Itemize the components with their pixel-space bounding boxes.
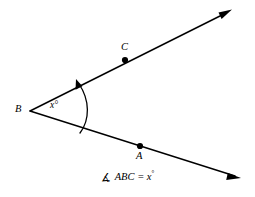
caption-degree-symbol: ° [152, 169, 155, 177]
angle-measure-label: x° [50, 101, 58, 111]
canvas-background [0, 0, 255, 197]
angle-symbol-icon: ∡ [101, 171, 111, 183]
point-marker-c [122, 57, 128, 63]
point-label-b: B [15, 104, 21, 115]
caption-text: ABC = x [115, 171, 152, 182]
point-label-c: C [121, 42, 128, 53]
angle-diagram-figure: B C A x° ∡ABC = x° [0, 0, 255, 197]
point-label-a: A [136, 151, 142, 162]
diagram-canvas [0, 0, 255, 197]
figure-caption: ∡ABC = x° [0, 170, 255, 183]
point-marker-a [137, 143, 143, 149]
